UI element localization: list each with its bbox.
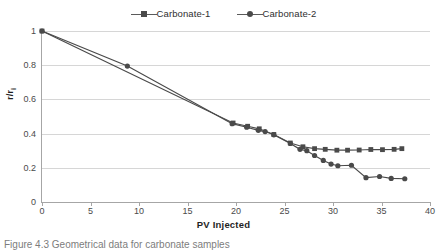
series-line [42,31,405,179]
data-point-marker [363,175,368,180]
data-point-marker [323,147,328,152]
x-tick-label: 15 [182,206,192,216]
data-point-marker [380,147,385,152]
y-axis-title-main: r/r [4,90,15,100]
data-point-marker [368,147,373,152]
y-tick-label: 0.2 [10,163,36,173]
data-point-marker [244,125,249,130]
series-line [42,31,402,150]
data-point-marker [334,148,339,153]
legend-item-carbonate-2[interactable]: Carbonate-2 [237,9,317,19]
figure-container: Carbonate-1 Carbonate-2 0510152025303540… [0,0,447,251]
legend-label-carbonate-2: Carbonate-2 [263,9,317,19]
x-tick-label: 30 [328,206,338,216]
data-series-layer [42,31,430,202]
data-point-marker [389,176,394,181]
y-tick-label: 1 [10,26,36,36]
x-axis-title: PV Injected [0,219,447,230]
y-tick-label: 0.8 [10,60,36,70]
y-tick-label: 0.4 [10,129,36,139]
legend-label-carbonate-1: Carbonate-1 [157,9,211,19]
data-point-marker [349,163,354,168]
y-axis-title: r/ri [4,88,17,100]
legend-item-carbonate-1[interactable]: Carbonate-1 [131,9,211,19]
data-point-marker [263,129,268,134]
plot-area [42,31,430,202]
y-tick-label: 0 [10,197,36,207]
data-point-marker [377,174,382,179]
y-axis-title-subscript: i [10,88,17,90]
legend-marker-square-icon [131,9,157,19]
data-point-marker [271,132,276,137]
data-point-marker [125,63,130,68]
data-point-marker [312,153,317,158]
data-point-marker [230,121,235,126]
figure-caption: Figure 4.3 Geometrical data for carbonat… [4,239,444,250]
data-point-marker [328,161,333,166]
x-tick-label: 40 [425,206,435,216]
data-point-marker [288,141,293,146]
x-tick-label: 20 [231,206,241,216]
data-point-marker [39,28,44,33]
data-point-marker [256,128,261,133]
data-point-marker [304,148,309,153]
data-point-marker [392,147,397,152]
data-point-marker [357,148,362,153]
x-tick-label: 0 [39,206,44,216]
series-carbonate-2 [39,28,407,181]
chart-legend: Carbonate-1 Carbonate-2 [0,6,447,22]
series-carbonate-1 [40,29,405,153]
x-tick-label: 10 [134,206,144,216]
x-tick-label: 5 [88,206,93,216]
legend-marker-circle-icon [237,9,263,19]
data-point-marker [345,148,350,153]
data-point-marker [402,176,407,181]
data-point-marker [321,158,326,163]
data-point-marker [399,146,404,151]
data-point-marker [312,146,317,151]
data-point-marker [297,147,302,152]
x-tick-label: 25 [279,206,289,216]
data-point-marker [335,163,340,168]
x-tick-label: 35 [376,206,386,216]
